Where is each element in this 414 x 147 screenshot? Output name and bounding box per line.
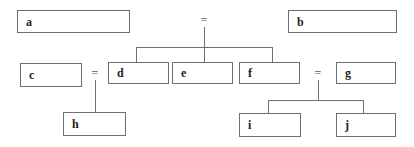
box-j[interactable]: j bbox=[336, 113, 396, 137]
box-e[interactable]: e bbox=[172, 62, 233, 84]
connector-c-to-h bbox=[95, 80, 96, 112]
g-equals-sign: = bbox=[315, 67, 322, 79]
connector-to-j bbox=[363, 100, 364, 113]
box-h-label: h bbox=[72, 118, 79, 130]
box-g[interactable]: g bbox=[336, 62, 396, 84]
connector-top-stem bbox=[204, 27, 205, 47]
box-b-label: b bbox=[297, 15, 304, 27]
box-f[interactable]: f bbox=[239, 62, 300, 84]
box-a[interactable]: a bbox=[17, 10, 130, 33]
box-c-label: c bbox=[29, 69, 34, 81]
box-a-label: a bbox=[26, 15, 32, 27]
connector-to-d bbox=[136, 47, 137, 62]
box-d-label: d bbox=[117, 67, 124, 79]
connector-to-i bbox=[268, 100, 269, 113]
c-equals-sign: = bbox=[92, 67, 99, 79]
box-h[interactable]: h bbox=[63, 112, 126, 136]
connector-to-f bbox=[272, 47, 273, 62]
box-f-label: f bbox=[248, 67, 252, 79]
top-equals-sign: = bbox=[201, 14, 208, 26]
box-c[interactable]: c bbox=[20, 63, 82, 87]
box-e-label: e bbox=[181, 67, 186, 79]
box-i[interactable]: i bbox=[239, 113, 301, 137]
box-j-label: j bbox=[345, 119, 349, 131]
box-i-label: i bbox=[248, 119, 251, 131]
connector-to-e bbox=[204, 47, 205, 62]
box-d[interactable]: d bbox=[108, 62, 169, 84]
box-g-label: g bbox=[345, 67, 351, 79]
box-b[interactable]: b bbox=[288, 10, 397, 33]
connector-g-stem bbox=[318, 80, 319, 100]
connector-g-bar bbox=[268, 100, 364, 101]
